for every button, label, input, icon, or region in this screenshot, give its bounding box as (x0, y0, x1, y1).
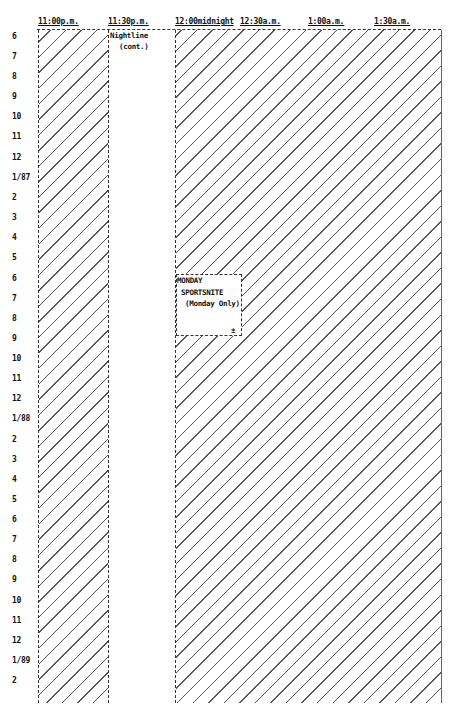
row-label: 3 (12, 455, 36, 464)
nightline-subtitle: (cont.) (119, 42, 149, 51)
row-label: 7 (12, 535, 36, 544)
row-label: 2 (12, 435, 36, 444)
time-header-midnight: 12:00midnight (175, 17, 234, 26)
column-divider (108, 30, 109, 703)
sportsnite-mark: ± (231, 326, 235, 335)
row-label: 5 (12, 495, 36, 504)
row-label: 7 (12, 52, 36, 61)
row-label: 11 (12, 374, 36, 383)
row-label: 2 (12, 193, 36, 202)
row-label: 1/89 (12, 656, 36, 665)
row-label: 4 (12, 233, 36, 242)
hatched-block-1100pm (39, 30, 108, 703)
time-header-1230am: 12:30a.m. (240, 17, 281, 26)
sportsnite-day: MONDAY (177, 276, 202, 285)
sportsnite-note: (Monday Only) (185, 299, 240, 308)
row-label: 2 (12, 676, 36, 685)
time-header-130am: 1:30a.m. (374, 17, 410, 26)
row-label: 6 (12, 274, 36, 283)
right-border (441, 30, 442, 703)
row-label: 11 (12, 616, 36, 625)
row-label: 6 (12, 32, 36, 41)
row-label: 10 (12, 596, 36, 605)
row-label: 9 (12, 334, 36, 343)
row-label: 10 (12, 112, 36, 121)
time-header-1100pm: 11:00p.m. (38, 17, 79, 26)
row-label: 8 (12, 72, 36, 81)
row-label: 6 (12, 515, 36, 524)
row-label: 1/88 (12, 414, 36, 423)
time-header-100am: 1:00a.m. (308, 17, 344, 26)
column-divider (175, 30, 176, 703)
row-label: 10 (12, 354, 36, 363)
row-label: 9 (12, 92, 36, 101)
column-divider (38, 30, 39, 703)
row-label: 8 (12, 314, 36, 323)
time-header-1130pm: 11:30p.m. (108, 17, 149, 26)
row-label: 11 (12, 132, 36, 141)
row-label: 12 (12, 636, 36, 645)
sportsnite-title: SPORTSNITE (181, 288, 223, 297)
row-label: 7 (12, 294, 36, 303)
row-label: 4 (12, 475, 36, 484)
row-label: 3 (12, 213, 36, 222)
row-label: 12 (12, 153, 36, 162)
row-label: 12 (12, 394, 36, 403)
row-label: 8 (12, 555, 36, 564)
row-label: 1/87 (12, 173, 36, 182)
hatched-block-midnight (176, 30, 441, 703)
row-label: 9 (12, 575, 36, 584)
row-label: 5 (12, 253, 36, 262)
nightline-title: Nightline (110, 31, 148, 40)
